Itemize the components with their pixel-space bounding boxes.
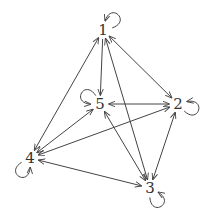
- edge-4-3: [39, 160, 142, 186]
- edge-1-5: [100, 39, 102, 95]
- edges-layer: [34, 36, 175, 185]
- graph-canvas: 1 2 3 4 5: [0, 0, 215, 219]
- edge-1-2: [109, 36, 171, 97]
- node-1-label: 1: [98, 21, 108, 39]
- nodes-layer: 1 2 3 4 5: [25, 21, 183, 197]
- edge-3-5: [105, 112, 146, 181]
- edge-2-3: [153, 113, 175, 180]
- self-loops-layer: [16, 13, 199, 208]
- edge-1-3: [106, 39, 148, 180]
- self-loop-5: [81, 90, 96, 105]
- self-loop-2: [184, 101, 199, 115]
- edge-1-4: [34, 38, 98, 150]
- edge-2-4: [38, 107, 169, 155]
- node-2-label: 2: [173, 95, 183, 113]
- node-5-label: 5: [95, 95, 105, 113]
- node-4-label: 4: [25, 149, 35, 167]
- node-3-label: 3: [145, 179, 155, 197]
